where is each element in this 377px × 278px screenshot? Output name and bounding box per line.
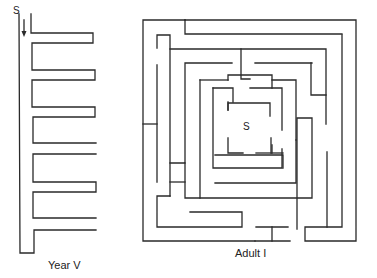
ring-3-right-step xyxy=(311,63,326,95)
adult-i-caption: Adult I xyxy=(235,247,266,259)
adult-i-start-label: S xyxy=(243,121,250,132)
ring-2-top xyxy=(185,20,342,34)
year-v-maze xyxy=(19,14,96,253)
ring-2-bottom xyxy=(157,196,242,227)
ring-3 xyxy=(170,49,326,124)
center-bottom-left xyxy=(228,138,243,153)
maze-diagram xyxy=(0,0,377,278)
ring-5-right xyxy=(272,80,296,140)
outer-wall-right xyxy=(185,20,356,241)
year-v-outer-wall xyxy=(19,14,96,253)
outer-wall-left xyxy=(143,20,255,241)
ring-6-top-right xyxy=(250,88,282,130)
year-v-lower-teeth xyxy=(33,154,96,218)
ring-5-top-right xyxy=(228,75,272,88)
ring-6-top xyxy=(213,88,233,102)
ring-6-stub xyxy=(215,155,283,168)
arrow-head-icon xyxy=(22,31,27,37)
year-v-inner-spine xyxy=(31,14,96,143)
ring-4-left xyxy=(170,63,232,163)
year-v-start-label: S xyxy=(13,5,20,16)
center-top xyxy=(228,103,270,116)
year-v-caption: Year V xyxy=(48,259,81,271)
ring-2-left xyxy=(157,35,170,196)
ring-5-bottom xyxy=(215,140,296,183)
